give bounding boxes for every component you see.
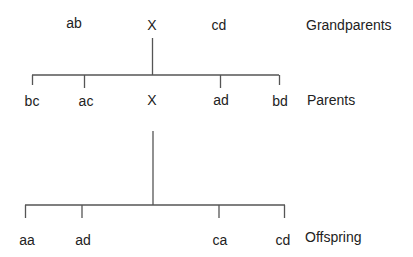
generation-label-offspring: Offspring bbox=[305, 229, 362, 245]
parent-ac: ac bbox=[79, 93, 94, 109]
parent-x: X bbox=[147, 92, 156, 108]
parent-bc: bc bbox=[25, 93, 40, 109]
parent-ad: ad bbox=[213, 92, 229, 108]
generation-label-grandparents: Grandparents bbox=[306, 17, 392, 33]
grandparent-x: X bbox=[147, 17, 156, 33]
pedigree-lines bbox=[0, 0, 413, 257]
grandparent-cd: cd bbox=[212, 17, 227, 33]
parent-bd: bd bbox=[272, 93, 288, 109]
grandparent-ab: ab bbox=[66, 15, 82, 31]
offspring-ca: ca bbox=[213, 232, 228, 248]
offspring-cd: cd bbox=[276, 232, 291, 248]
offspring-aa: aa bbox=[19, 232, 35, 248]
offspring-ad: ad bbox=[75, 232, 91, 248]
generation-label-parents: Parents bbox=[307, 92, 355, 108]
